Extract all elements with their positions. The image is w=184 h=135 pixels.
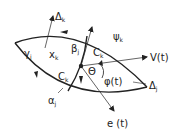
label-c-k-upper: Ck (93, 47, 104, 59)
alpha-j-leader (58, 88, 63, 93)
label-x-k: xk (49, 49, 59, 61)
label-gamma-j: γj (24, 48, 32, 61)
lens-diagram: Δk ψk γj xk βj Ck Ck V(t) Θ φ(t) Δj αj e… (0, 0, 184, 135)
c-k-arrow (81, 27, 92, 66)
label-delta-j: Δj (149, 80, 158, 93)
label-c-k-lower: Ck (58, 71, 69, 83)
inner-curve-arrow-icon (79, 76, 83, 84)
label-theta: Θ (88, 66, 96, 77)
left-arc-direction-arrow-icon (34, 71, 38, 78)
label-velocity: V(t) (150, 52, 169, 63)
contact-point (79, 64, 83, 68)
label-phi-t: φ(t) (104, 76, 122, 87)
e-t-arrow (81, 66, 114, 111)
label-e-t: e (t) (107, 118, 128, 129)
label-beta-j: βj (71, 43, 79, 56)
label-alpha-j: αj (48, 95, 57, 108)
delta-k-arrow (45, 16, 53, 48)
label-psi-k: ψk (113, 31, 124, 43)
delta-j-leader (133, 82, 146, 84)
top-arc-direction-arrow-icon (60, 30, 68, 34)
label-delta-k: Δk (55, 11, 66, 23)
